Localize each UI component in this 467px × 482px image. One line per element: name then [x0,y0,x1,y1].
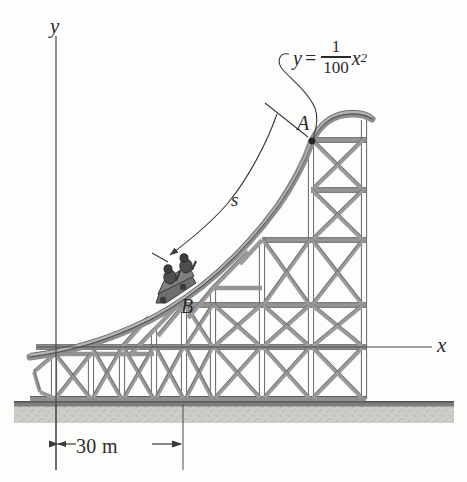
arc-length-label: s [231,189,238,211]
equation-numerator: 1 [330,38,343,55]
equation-denominator: 100 [321,59,351,76]
equation-variable: x [352,47,361,70]
point-a-label: A [297,112,309,135]
y-axis-label: y [50,14,59,39]
x-axis-label: x [437,333,446,358]
equation-equals: = [305,47,316,70]
equation-lhs: y [293,47,302,70]
truss-structure [30,120,367,402]
roller-coaster-figure: y x A B s 30 m y = 1 100 x 2 [0,0,467,482]
arc-arrow-tail [152,253,168,262]
arc-length-indicator [170,114,277,255]
dimension-label: 30 m [76,435,118,458]
point-b-label: B [181,295,193,318]
curve-equation: y = 1 100 x 2 [293,39,367,77]
point-A-marker [309,138,316,145]
ground [14,401,454,423]
figure-canvas [0,0,467,482]
equation-fraction: 1 100 [321,38,351,76]
equation-exponent: 2 [361,50,368,66]
